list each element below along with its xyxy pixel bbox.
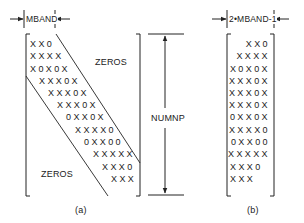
lower-zeros-label: ZEROS <box>41 169 73 179</box>
caption-a: (a) <box>75 205 87 215</box>
matrix-a-row: XXXX0 <box>75 125 116 135</box>
caption-b: (b) <box>247 205 259 215</box>
2mband-minus-1-label: 2•MBAND-1 <box>229 14 277 24</box>
mband-label: MBAND <box>26 14 58 24</box>
matrix-b-row: XXXX <box>226 51 270 61</box>
matrix-b-row: 0XX00 <box>226 137 270 147</box>
matrix-a-row: XXX <box>111 174 136 184</box>
matrix-b-row: XXXXX <box>226 149 270 159</box>
matrix-a-row: 0XX00 <box>84 137 123 147</box>
matrix-b-row: XX0 <box>226 39 270 49</box>
matrix-b-row: X0X0X <box>226 64 270 74</box>
matrix-b-row: 0XX0X <box>226 112 270 122</box>
numnp-label: NUMNP <box>150 113 186 123</box>
matrix-a-row: XXX0X <box>57 100 98 110</box>
matrix-a-row: XXXX <box>30 51 64 61</box>
matrix-a-row: XX0 <box>30 39 54 49</box>
matrix-a-row: XXX0X <box>48 88 89 98</box>
matrix-b-row: XXX0 <box>230 162 263 172</box>
matrix-a-row: 0XX0X <box>66 112 106 122</box>
matrix-b-row: XXX0X <box>226 100 270 110</box>
banded-matrix-storage-diagram: MBAND 2•MBAND-1 ZEROS ZEROS NUMNP (a) (b… <box>0 0 304 223</box>
matrix-a-row: XXX0 <box>102 162 135 172</box>
upper-zeros-label: ZEROS <box>95 57 127 67</box>
matrix-a-row: XXX0X <box>39 76 80 86</box>
matrix-b-row: XXX <box>230 174 255 184</box>
matrix-b-row: XXX0X <box>226 76 270 86</box>
matrix-b-row: XXX0X <box>226 88 270 98</box>
matrix-a-row: X0X0X <box>30 64 70 74</box>
matrix-a-row: XXXXX <box>93 149 135 159</box>
matrix-b-row: XXXX0 <box>226 125 270 135</box>
